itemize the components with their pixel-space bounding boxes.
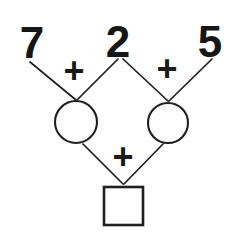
addition-diagram: 7 2 5 + + +	[0, 0, 235, 245]
partial-sum-circle-right[interactable]	[148, 103, 188, 143]
plus-operator-right: +	[156, 48, 177, 89]
plus-operator-bottom: +	[112, 136, 133, 177]
plus-operator-left: +	[63, 50, 84, 91]
addend-7: 7	[20, 18, 44, 67]
partial-sum-circle-left[interactable]	[55, 101, 97, 143]
addend-2: 2	[106, 17, 130, 66]
addend-5: 5	[198, 17, 222, 66]
worksheet-canvas: 7 2 5 + + +	[0, 0, 235, 245]
total-sum-square[interactable]	[104, 187, 143, 225]
